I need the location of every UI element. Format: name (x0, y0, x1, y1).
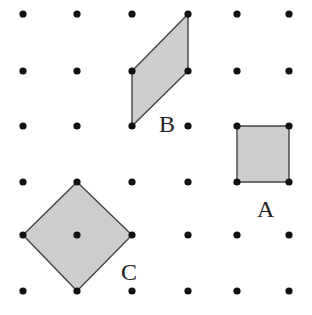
diagram-svg: ABC (0, 0, 312, 315)
grid-dot (233, 10, 240, 17)
grid-dot (19, 287, 26, 294)
grid-dot (73, 122, 80, 129)
grid-dot (19, 10, 26, 17)
grid-dot (73, 178, 80, 185)
grid-dot (128, 67, 135, 74)
grid-dot (19, 67, 26, 74)
grid-dot (73, 67, 80, 74)
shape-a (237, 126, 289, 182)
shapes-layer (23, 14, 289, 291)
grid-dot (19, 122, 26, 129)
grid-dot (128, 231, 135, 238)
grid-dot (128, 10, 135, 17)
grid-dot (73, 231, 80, 238)
grid-dot (184, 287, 191, 294)
grid-dot (128, 122, 135, 129)
grid-dot (285, 122, 292, 129)
grid-dot (184, 122, 191, 129)
grid-dot (285, 178, 292, 185)
grid-dot (233, 287, 240, 294)
grid-dot (184, 67, 191, 74)
grid-dot (73, 10, 80, 17)
grid-dot (19, 231, 26, 238)
grid-dot (184, 178, 191, 185)
grid-dot (285, 231, 292, 238)
grid-dot (233, 231, 240, 238)
grid-dot (285, 67, 292, 74)
shape-label-b: B (159, 111, 175, 137)
dot-grid-diagram: ABC (0, 0, 312, 315)
grid-dot (233, 67, 240, 74)
grid-dot (285, 287, 292, 294)
grid-dot (128, 178, 135, 185)
grid-dot (128, 287, 135, 294)
grid-dot (285, 10, 292, 17)
shape-label-a: A (257, 196, 275, 222)
grid-dot (19, 178, 26, 185)
grid-dot (184, 10, 191, 17)
grid-dot (233, 122, 240, 129)
shape-label-c: C (121, 259, 137, 285)
grid-dot (233, 178, 240, 185)
shape-b (132, 14, 188, 126)
grid-dot (184, 231, 191, 238)
grid-dot (73, 287, 80, 294)
